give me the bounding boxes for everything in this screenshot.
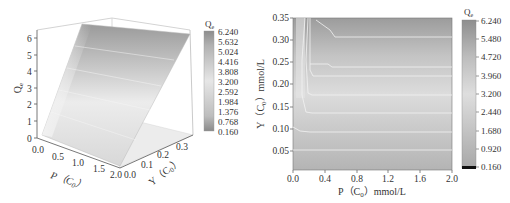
colorbar-left-title: Qe [205, 19, 215, 30]
cb-right-tick-5: 2.440 [481, 107, 502, 117]
contour-y-tick-3: 0.20 [272, 79, 289, 89]
contour-x-tick-5: 2.0 [446, 174, 458, 184]
x-tick-4: 2.0 [110, 170, 122, 180]
cb-left-tick-4: 3.808 [218, 67, 239, 77]
svg-text:Y（C0）mmol/L: Y（C0）mmol/L [255, 59, 268, 129]
x-tick-0: 0.0 [32, 145, 44, 155]
z-axis-ticks [34, 38, 37, 138]
z-tick-0: 0 [27, 134, 32, 144]
colorbar-min-swatch [462, 166, 476, 169]
contour-area [293, 18, 452, 170]
cb-left-tick-0: 6.240 [218, 27, 239, 37]
x-tick-2: 1.0 [72, 158, 84, 168]
colorbar-right: Qe 6.240 5.480 4.720 3.960 3.200 2.440 1… [462, 7, 502, 172]
x-tick-1: 0.5 [52, 152, 64, 162]
contour-x-tick-3: 1.2 [382, 174, 394, 184]
y-tick-1: 0.1 [141, 160, 153, 170]
surface-plot-3d: 0 1 2 3 4 5 6 Qe 0.0 0.5 1.0 1.5 2.0 P（C… [12, 18, 239, 193]
cb-left-tick-5: 3.200 [218, 77, 239, 87]
z-tick-2: 2 [27, 100, 32, 110]
cb-left-tick-8: 1.376 [218, 107, 239, 117]
cb-left-tick-1: 5.632 [218, 37, 238, 47]
contour-x-ticks [293, 170, 452, 173]
contour-x-tick-4: 1.6 [414, 174, 426, 184]
cb-right-tick-6: 1.680 [481, 126, 502, 136]
cb-right-tick-3: 3.960 [481, 71, 502, 81]
contour-y-tick-5: 0.10 [272, 124, 289, 134]
cb-left-tick-9: 0.768 [218, 117, 239, 127]
z-tick-1: 1 [27, 117, 32, 127]
z-tick-3: 3 [27, 84, 32, 94]
cb-right-tick-4: 3.200 [481, 89, 502, 99]
cb-right-tick-1: 5.480 [481, 34, 502, 44]
z-axis-label: Qe [12, 83, 25, 93]
contour-y-tick-4: 0.15 [272, 102, 289, 112]
figure: 0 1 2 3 4 5 6 Qe 0.0 0.5 1.0 1.5 2.0 P（C… [0, 0, 510, 203]
cb-left-tick-7: 1.984 [218, 97, 239, 107]
contour-x-tick-0: 0.0 [287, 174, 299, 184]
cb-right-tick-8: 0.160 [481, 162, 502, 172]
contour-y-tick-0: 0.35 [272, 13, 289, 23]
colorbar-right-title: Qe [464, 7, 474, 18]
cb-left-tick-6: 2.592 [218, 87, 238, 97]
z-tick-4: 4 [27, 67, 32, 77]
contour-x-axis-label: P（C0）mmol/L [338, 186, 406, 199]
svg-text:Qe: Qe [12, 83, 25, 93]
contour-plot: 0.35 0.30 0.25 0.20 0.15 0.10 0.05 Y（C0）… [255, 7, 502, 199]
contour-y-tick-1: 0.30 [272, 35, 289, 45]
box-right-vertical [190, 30, 193, 135]
y-tick-3: 0.3 [176, 142, 188, 152]
svg-text:P（C0）: P（C0） [48, 169, 87, 193]
z-tick-6: 6 [27, 34, 32, 44]
contour-y-tick-6: 0.05 [272, 146, 289, 156]
cb-right-tick-2: 4.720 [481, 52, 502, 62]
contour-x-tick-2: 0.8 [351, 174, 363, 184]
cb-left-tick-10: 0.160 [218, 127, 239, 137]
cb-left-tick-3: 4.416 [218, 57, 239, 67]
y-tick-2: 0.2 [157, 150, 169, 160]
cb-right-tick-0: 6.240 [481, 16, 502, 26]
contour-y-tick-2: 0.25 [272, 57, 289, 67]
contour-y-axis-label: Y（C0）mmol/L [255, 59, 268, 129]
z-tick-5: 5 [27, 51, 32, 61]
x-axis-label: P（C0） [48, 169, 87, 193]
cb-right-tick-7: 0.920 [481, 144, 502, 154]
contour-low-p-band [296, 18, 305, 98]
contour-x-tick-1: 0.4 [319, 174, 331, 184]
colorbar-left: Qe 6.240 5.632 5.024 4.416 3.808 3.200 2… [204, 19, 239, 137]
y-tick-0: 0.0 [124, 170, 136, 180]
contour-y-ticks [290, 18, 293, 151]
cb-left-tick-2: 5.024 [218, 47, 239, 57]
x-tick-3: 1.5 [93, 164, 105, 174]
